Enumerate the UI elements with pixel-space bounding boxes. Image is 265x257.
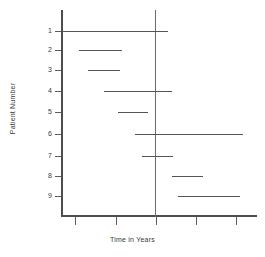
y-axis-tick [55,134,61,135]
patient-timeline-chart: 123456789 Time in Years Patient Number [0,0,265,257]
y-axis-tick [55,112,61,113]
patient-segment [178,196,240,197]
y-axis-tick-label: 2 [0,46,52,53]
y-axis-tick [55,70,61,71]
y-axis-line [61,10,63,217]
y-axis-tick [55,91,61,92]
x-axis-title: Time in Years [0,236,265,243]
study-reference-line [155,10,156,217]
y-axis-tick [55,176,61,177]
patient-segment [62,31,168,32]
patient-segment [118,112,148,113]
patient-segment [142,156,173,157]
patient-segment [104,91,172,92]
y-axis-title: Patient Number [9,64,16,154]
y-axis-tick [55,156,61,157]
y-axis-tick [55,31,61,32]
y-axis-tick-label: 8 [0,172,52,179]
patient-segment [135,134,243,135]
patient-segment [79,50,122,51]
patient-segment [88,70,120,71]
y-axis-tick-label: 1 [0,27,52,34]
y-axis-tick-label: 9 [0,192,52,199]
x-axis-tick [75,217,76,225]
x-axis-tick [156,217,157,225]
x-axis-tick [236,217,237,225]
y-axis-tick [55,196,61,197]
y-axis-tick [55,50,61,51]
x-axis-tick [196,217,197,225]
x-axis-tick [116,217,117,225]
patient-segment [172,176,203,177]
x-axis-line [61,215,257,217]
